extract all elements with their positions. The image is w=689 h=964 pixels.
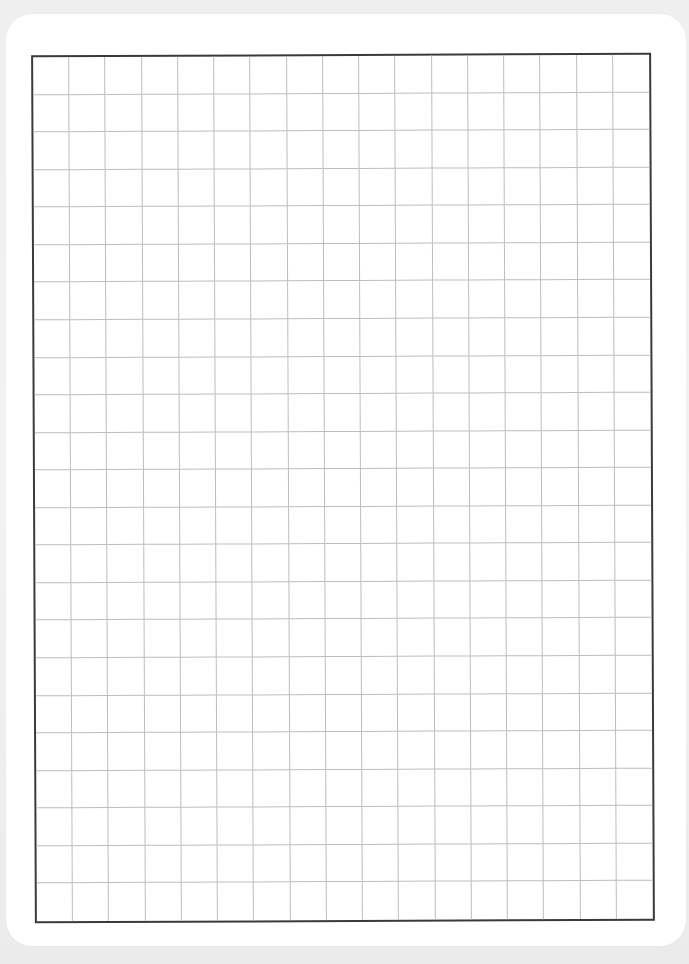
- grid-cell: [360, 206, 396, 244]
- grid-cell: [252, 507, 288, 545]
- grid-cell: [397, 431, 433, 469]
- grid-cell: [290, 770, 326, 808]
- grid-cell: [399, 769, 435, 807]
- grid-cell: [433, 431, 469, 469]
- grid-cell: [361, 469, 397, 507]
- grid-cell: [614, 280, 650, 318]
- grid-cell: [616, 731, 652, 769]
- grid-cell: [180, 507, 216, 545]
- grid-cell: [287, 131, 323, 169]
- grid-cell: [580, 844, 616, 882]
- grid-cell: [181, 845, 217, 883]
- grid-cell: [435, 882, 471, 920]
- grid-cell: [324, 319, 360, 357]
- grid-cell: [397, 356, 433, 394]
- grid-cell: [180, 545, 216, 583]
- grid-cell: [179, 320, 215, 358]
- grid-cell: [181, 658, 217, 696]
- grid-cell: [613, 92, 649, 130]
- grid-cell: [579, 618, 615, 656]
- grid-cell: [543, 581, 579, 619]
- grid-cell: [106, 245, 142, 283]
- grid-cell: [542, 506, 578, 544]
- grid-cell: [35, 433, 71, 471]
- grid-cell: [507, 619, 543, 657]
- grid-cell: [254, 845, 290, 883]
- grid-cell: [144, 545, 180, 583]
- grid-cell: [323, 169, 359, 207]
- grid-cell: [290, 882, 326, 920]
- grid-cell: [109, 733, 145, 771]
- grid-cell: [433, 281, 469, 319]
- grid-cell: [71, 433, 107, 471]
- grid-cell: [180, 582, 216, 620]
- grid-cell: [142, 207, 178, 245]
- grid-cell: [506, 468, 542, 506]
- grid-cell: [36, 621, 72, 659]
- grid-cell: [543, 618, 579, 656]
- grid-cell: [470, 431, 506, 469]
- grid-cell: [34, 283, 70, 321]
- grid-cell: [579, 693, 615, 731]
- grid-cell: [214, 94, 250, 132]
- grid-cell: [143, 282, 179, 320]
- grid-cell: [614, 318, 650, 356]
- grid-cell: [579, 543, 615, 581]
- grid-cell: [434, 544, 470, 582]
- grid-cell: [432, 93, 468, 131]
- grid-cell: [290, 807, 326, 845]
- grid-cell: [142, 94, 178, 132]
- grid-cell: [73, 883, 109, 921]
- grid-cell: [470, 619, 506, 657]
- grid-cell: [469, 318, 505, 356]
- grid-cell: [577, 168, 613, 206]
- grid-cell: [251, 56, 287, 94]
- grid-cell: [471, 694, 507, 732]
- grid-cell: [253, 582, 289, 620]
- grid-cell: [251, 169, 287, 207]
- grid-cell: [181, 620, 217, 658]
- grid-cell: [142, 57, 178, 95]
- grid-cell: [360, 281, 396, 319]
- grid-cell: [542, 431, 578, 469]
- grid-cell: [253, 657, 289, 695]
- grid-cell: [107, 357, 143, 395]
- grid-cell: [578, 468, 614, 506]
- grid-cell: [505, 281, 541, 319]
- grid-cell: [326, 845, 362, 883]
- grid-cell: [143, 320, 179, 358]
- grid-cell: [252, 282, 288, 320]
- grid-cell: [144, 507, 180, 545]
- grid-cell: [287, 94, 323, 132]
- grid-cell: [361, 431, 397, 469]
- grid-cell: [507, 769, 543, 807]
- grid-cell: [578, 280, 614, 318]
- grid-cell: [106, 170, 142, 208]
- grid-cell: [72, 620, 108, 658]
- grid-cell: [577, 55, 613, 93]
- grid-cell: [143, 245, 179, 283]
- grid-cell: [541, 243, 577, 281]
- grid-cell: [178, 94, 214, 132]
- grid-cell: [580, 769, 616, 807]
- grid-cell: [216, 545, 252, 583]
- grid-cell: [143, 357, 179, 395]
- grid-cell: [287, 169, 323, 207]
- grid-cell: [433, 356, 469, 394]
- grid-cell: [70, 207, 106, 245]
- grid-cell: [432, 131, 468, 169]
- grid-cell: [471, 807, 507, 845]
- grid-cell: [288, 432, 324, 470]
- grid-cell: [396, 93, 432, 131]
- grid-cell: [107, 320, 143, 358]
- grid-cell: [395, 56, 431, 94]
- grid-cell: [179, 244, 215, 282]
- grid-cell: [34, 245, 70, 283]
- grid-cell: [506, 506, 542, 544]
- grid-cell: [396, 206, 432, 244]
- grid-cell: [214, 56, 250, 94]
- grid-cell: [109, 771, 145, 809]
- grid-cell: [434, 694, 470, 732]
- grid-cell: [614, 205, 650, 243]
- grid-cell: [288, 281, 324, 319]
